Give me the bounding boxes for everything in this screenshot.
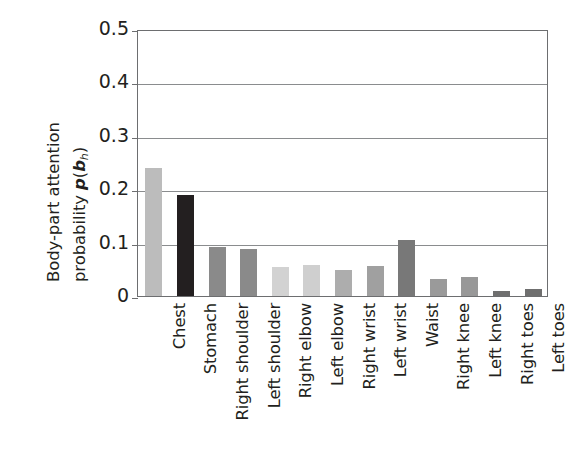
x-axis-tick-labels: ChestStomachRight shoulderLeft shoulderR… [137, 299, 548, 466]
plot-area [137, 30, 548, 297]
bar [240, 249, 257, 296]
x-axis-tick-label: Right wrist [350, 303, 369, 389]
x-axis-tick-label-text: Right knee [454, 303, 473, 390]
x-axis-tick-label: Chest [160, 303, 179, 349]
y-axis-tick-mark [132, 84, 138, 85]
x-axis-tick-label-text: Chest [169, 303, 188, 349]
bar [209, 247, 226, 296]
x-axis-tick-label-text: Stomach [201, 303, 220, 374]
bar [398, 240, 415, 296]
y-axis-tick-mark [132, 31, 138, 32]
x-axis-tick-label: Right knee [444, 303, 463, 390]
gridline [138, 245, 547, 246]
x-axis-tick-label: Right shoulder [223, 303, 242, 421]
x-axis-tick-label: Left knee [476, 303, 495, 378]
y-axis-tick-label: 0.2 [99, 179, 129, 198]
bar [303, 265, 320, 297]
y-axis-tick-label: 0.1 [99, 233, 129, 252]
y-axis-tick-labels: 00.10.20.30.40.5 [0, 0, 137, 297]
gridline [138, 191, 547, 192]
bar [177, 195, 194, 296]
y-axis-tick-mark [132, 191, 138, 192]
x-axis-tick-label: Left wrist [381, 303, 400, 377]
x-axis-tick-label: Stomach [191, 303, 210, 374]
bar [461, 277, 478, 296]
x-axis-tick-label-text: Left shoulder [264, 303, 283, 408]
bar [145, 168, 162, 296]
x-axis-tick-label-text: Left wrist [391, 303, 410, 377]
bar [430, 279, 447, 296]
bar [272, 267, 289, 296]
bar [367, 266, 384, 296]
x-axis-tick-label-text: Right wrist [359, 303, 378, 389]
bar [525, 289, 542, 296]
y-axis-tick-label: 0.5 [99, 19, 129, 38]
x-axis-tick-label-text: Waist [422, 303, 441, 347]
bar-chart-figure: Body-part attention probability p(bh) 00… [0, 0, 574, 466]
x-axis-tick-label: Waist [413, 303, 432, 347]
x-axis-tick-label: Left elbow [318, 303, 337, 386]
y-axis-tick-label: 0.3 [99, 126, 129, 145]
x-axis-tick-label-text: Left toes [549, 303, 568, 373]
y-axis-tick-mark [132, 138, 138, 139]
x-axis-tick-label: Right elbow [286, 303, 305, 398]
bar [493, 291, 510, 296]
y-axis-tick-label: 0 [117, 286, 129, 305]
y-axis-tick-label: 0.4 [99, 72, 129, 91]
x-axis-tick-label-text: Right toes [517, 303, 536, 385]
gridline [138, 138, 547, 139]
x-axis-tick-label: Right toes [508, 303, 527, 385]
x-axis-tick-label-text: Right shoulder [233, 303, 252, 421]
gridline [138, 84, 547, 85]
x-axis-tick-label: Left toes [539, 303, 558, 373]
y-axis-tick-mark [132, 245, 138, 246]
x-axis-tick-label: Left shoulder [255, 303, 274, 408]
bar [335, 270, 352, 296]
x-axis-tick-label-text: Left knee [485, 303, 504, 378]
x-axis-tick-label-text: Right elbow [296, 303, 315, 398]
x-axis-tick-label-text: Left elbow [327, 303, 346, 386]
